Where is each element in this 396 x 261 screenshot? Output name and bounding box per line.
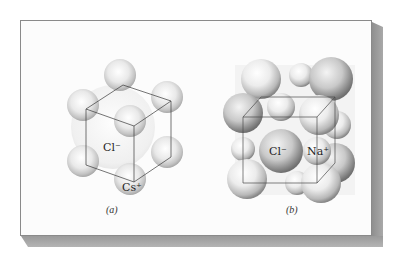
cs-ion-sphere	[67, 89, 99, 121]
cl-ion-label: Cl⁻	[269, 145, 287, 158]
frame-shadow-right	[372, 22, 383, 246]
cs-ion-sphere	[67, 145, 99, 177]
cs-ion-sphere	[104, 59, 136, 91]
figure-frame: Cl⁻ Cs⁺ (a)	[20, 20, 372, 236]
panel-a-cscl-structure: Cl⁻ Cs⁺	[41, 39, 201, 209]
cs-ion-sphere	[151, 81, 183, 113]
cs-ion-label: Cs⁺	[122, 181, 142, 194]
panel-b-nacl-structure: Cl⁻ Na⁺	[223, 45, 363, 205]
cl-ion-sphere	[309, 57, 353, 101]
nacl-lattice-diagram: Cl⁻ Na⁺	[223, 45, 363, 205]
cl-ion-sphere	[227, 159, 267, 199]
na-ion-label: Na⁺	[307, 145, 329, 158]
caption-b: (b)	[286, 204, 298, 215]
cl-ion-label: Cl⁻	[103, 141, 121, 154]
cl-ion-sphere	[241, 59, 281, 99]
caption-a: (a)	[106, 204, 118, 215]
cs-ion-sphere	[151, 136, 183, 168]
cscl-lattice-diagram: Cl⁻ Cs⁺	[41, 39, 201, 209]
frame-shadow-bottom	[21, 236, 383, 247]
